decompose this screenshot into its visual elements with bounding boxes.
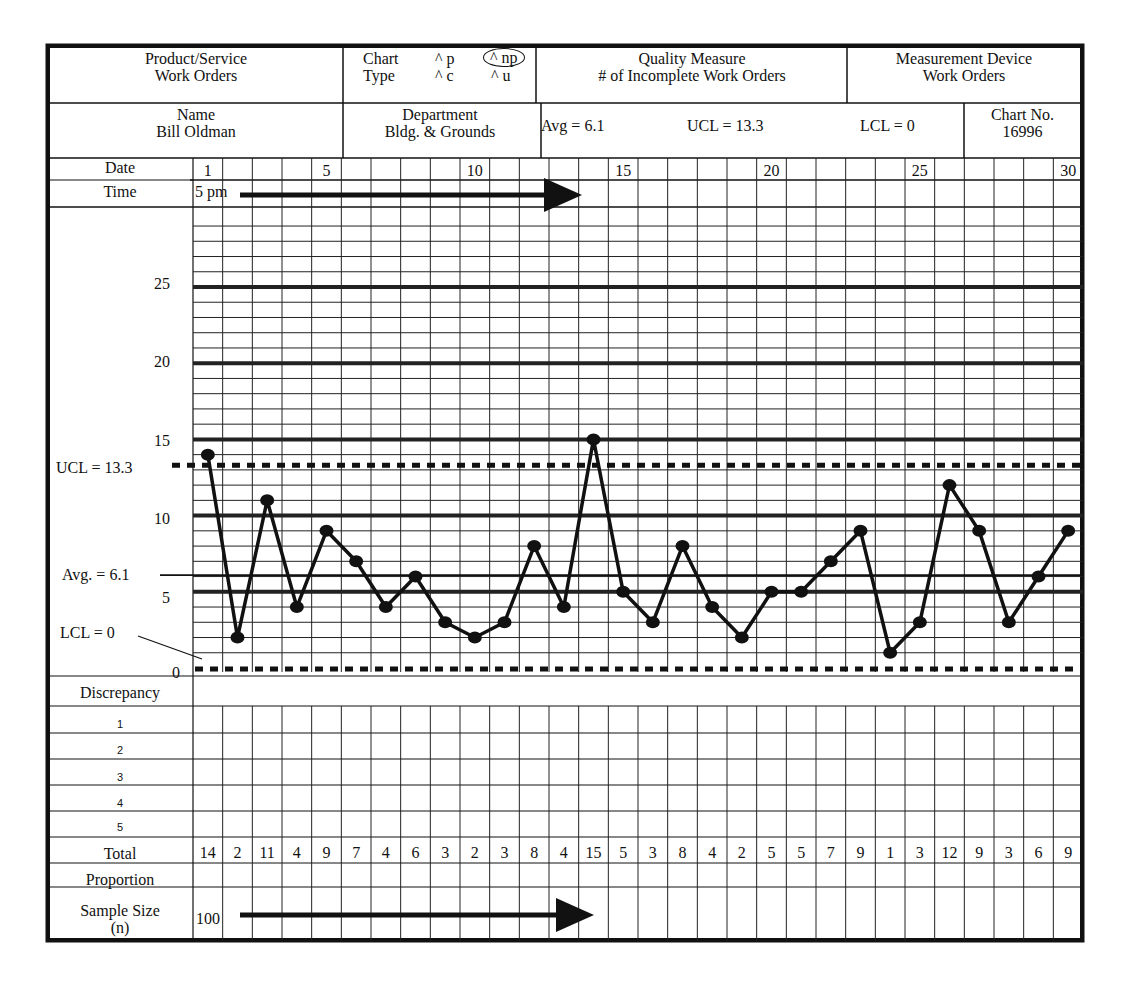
product-service-label: Product/Service xyxy=(50,50,342,67)
chart-type-option-np[interactable]: ^ np xyxy=(483,48,525,67)
name-cell: Name Bill Oldman xyxy=(50,106,342,140)
sample-size-n: (n) xyxy=(50,919,190,936)
measurement-device-label: Measurement Device xyxy=(848,50,1080,67)
name-value: Bill Oldman xyxy=(50,123,342,140)
y-tick-20: 20 xyxy=(60,353,170,370)
chart-type-option-c[interactable]: ^ c xyxy=(435,67,454,84)
quality-measure-cell: Quality Measure # of Incomplete Work Ord… xyxy=(537,50,847,84)
chart-type-label-1: Chart xyxy=(363,50,399,67)
product-service-value: Work Orders xyxy=(50,67,342,84)
department-label: Department xyxy=(345,106,535,123)
measurement-device-cell: Measurement Device Work Orders xyxy=(848,50,1080,84)
y-tick-15: 15 xyxy=(60,432,170,449)
discrepancy-item-1: 1 xyxy=(50,716,190,733)
chart-no-cell: Chart No. 16996 xyxy=(965,106,1080,140)
date-label: Date xyxy=(50,159,190,176)
proportion-label: Proportion xyxy=(50,871,190,888)
control-chart-form xyxy=(47,45,1083,941)
chart-type-option-p[interactable]: ^ p xyxy=(435,50,455,67)
chart-type-label-2: Type xyxy=(363,67,395,84)
ucl-annotation: UCL = 13.3 xyxy=(56,459,166,476)
y-tick-25: 25 xyxy=(60,275,170,292)
chart-no-label: Chart No. xyxy=(965,106,1080,123)
sample-size-label: Sample Size xyxy=(50,902,190,919)
avg-value: Avg = 6.1 xyxy=(541,117,641,134)
y-tick-0: 0 xyxy=(60,664,180,681)
sample-size-value: 100 xyxy=(196,910,236,927)
discrepancy-item-5: 5 xyxy=(50,819,190,836)
discrepancy-item-2: 2 xyxy=(50,742,190,759)
lcl-value: LCL = 0 xyxy=(860,117,960,134)
product-service-cell: Product/Service Work Orders xyxy=(50,50,342,84)
name-label: Name xyxy=(50,106,342,123)
time-value: 5 pm xyxy=(195,183,245,200)
avg-annotation: Avg. = 6.1 xyxy=(62,566,172,583)
time-label: Time xyxy=(50,183,190,200)
sample-size-cell: Sample Size (n) xyxy=(50,902,190,936)
department-cell: Department Bldg. & Grounds xyxy=(345,106,535,140)
quality-measure-value: # of Incomplete Work Orders xyxy=(537,67,847,84)
measurement-device-value: Work Orders xyxy=(848,67,1080,84)
chart-no-value: 16996 xyxy=(965,123,1080,140)
department-value: Bldg. & Grounds xyxy=(345,123,535,140)
lcl-annotation: LCL = 0 xyxy=(60,624,170,641)
total-label: Total xyxy=(50,845,190,862)
y-tick-10: 10 xyxy=(60,510,170,527)
quality-measure-label: Quality Measure xyxy=(537,50,847,67)
discrepancy-item-4: 4 xyxy=(50,795,190,812)
chart-type-option-u[interactable]: ^ u xyxy=(491,67,511,84)
ucl-value: UCL = 13.3 xyxy=(687,117,817,134)
discrepancy-item-3: 3 xyxy=(50,769,190,786)
discrepancy-label: Discrepancy xyxy=(50,684,190,701)
y-tick-5: 5 xyxy=(60,589,170,606)
